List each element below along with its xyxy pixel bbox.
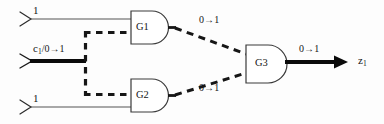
output-label-sub: 1 xyxy=(363,59,367,68)
circuit-diagram-canvas: 1 c1/0→1 1 G1 G2 G3 0→1 0→1 0→1 z1 xyxy=(0,0,384,124)
wire-g1-to-g3-dashed xyxy=(175,28,246,54)
g3-output-value-label: 0→1 xyxy=(299,44,319,54)
gate-g1-label: G1 xyxy=(136,22,149,33)
gate-g3-label: G3 xyxy=(255,58,268,69)
wire-output-z1 xyxy=(285,56,348,69)
g1-output-value-label: 0→1 xyxy=(199,15,219,25)
output-label-z1: z1 xyxy=(358,55,367,68)
input-terminal-bottom xyxy=(20,100,31,114)
input-middle-label-rest: /0→1 xyxy=(42,43,65,54)
g2-output-value-label: 0→1 xyxy=(199,83,219,93)
input-middle-label: c1/0→1 xyxy=(33,43,64,56)
circuit-diagram-svg xyxy=(0,0,384,124)
input-top-label: 1 xyxy=(33,5,39,16)
output-arrowhead-icon xyxy=(334,56,348,69)
input-bottom-label: 1 xyxy=(33,93,39,104)
gate-g2-label: G2 xyxy=(136,90,149,101)
input-terminal-top xyxy=(20,12,31,26)
